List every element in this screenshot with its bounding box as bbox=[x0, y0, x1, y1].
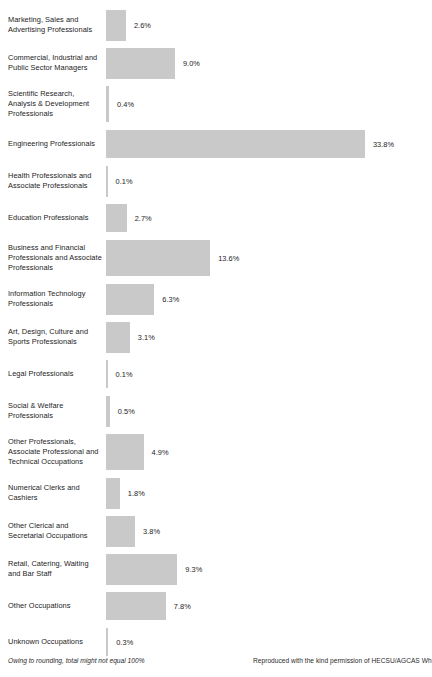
bar-track: 6.3% bbox=[106, 280, 421, 318]
bar-row: Marketing, Sales and Advertising Profess… bbox=[0, 6, 421, 44]
bar-row-label: Commercial, Industrial and Public Sector… bbox=[0, 53, 106, 73]
bar bbox=[106, 554, 177, 585]
bar-track: 0.1% bbox=[106, 162, 421, 200]
bar-row: Other Occupations7.8% bbox=[0, 588, 421, 624]
bar-value-label: 6.3% bbox=[162, 295, 179, 304]
bar-row: Numerical Clerks and Cashiers1.8% bbox=[0, 474, 421, 512]
bar-track: 0.4% bbox=[106, 82, 421, 126]
bar bbox=[106, 86, 109, 122]
bar-track: 9.0% bbox=[106, 44, 421, 82]
bar-value-label: 3.8% bbox=[143, 527, 160, 536]
bar bbox=[106, 130, 365, 158]
bar-value-label: 4.9% bbox=[152, 448, 169, 457]
bar-row: Other Professionals, Associate Professio… bbox=[0, 430, 421, 474]
bar-track: 3.1% bbox=[106, 318, 421, 356]
bar-row-label: Marketing, Sales and Advertising Profess… bbox=[0, 15, 106, 35]
bar bbox=[106, 396, 110, 427]
bar-row-label: Numerical Clerks and Cashiers bbox=[0, 483, 106, 503]
bar-value-label: 9.3% bbox=[185, 565, 202, 574]
bar-row-label: Other Occupations bbox=[0, 601, 106, 611]
bar-value-label: 3.1% bbox=[138, 333, 155, 342]
bar bbox=[106, 516, 135, 547]
bar-value-label: 0.1% bbox=[116, 370, 133, 379]
bar-value-label: 1.8% bbox=[128, 489, 145, 498]
bar-row-label: Other Professionals, Associate Professio… bbox=[0, 437, 106, 468]
bar-value-label: 7.8% bbox=[174, 602, 191, 611]
bar-track: 0.5% bbox=[106, 392, 421, 430]
bar-value-label: 0.4% bbox=[117, 100, 134, 109]
bar-track: 4.9% bbox=[106, 430, 421, 474]
bar bbox=[106, 360, 108, 388]
bar-track: 2.7% bbox=[106, 200, 421, 236]
bar-track: 13.6% bbox=[106, 236, 421, 280]
bar-row: Other Clerical and Secretarial Occupatio… bbox=[0, 512, 421, 550]
chart-footer: Owing to rounding, total might not equal… bbox=[0, 657, 421, 671]
bar-row-label: Retail, Catering, Waiting and Bar Staff bbox=[0, 559, 106, 579]
bar-row-label: Other Clerical and Secretarial Occupatio… bbox=[0, 521, 106, 541]
bar bbox=[106, 478, 120, 509]
bar-value-label: 0.3% bbox=[116, 638, 133, 647]
bar-row-label: Education Professionals bbox=[0, 213, 106, 223]
bar bbox=[106, 48, 175, 79]
bar bbox=[106, 434, 144, 470]
bar bbox=[106, 628, 108, 656]
bar-row: Social & Welfare Professionals0.5% bbox=[0, 392, 421, 430]
bar-row: Education Professionals2.7% bbox=[0, 200, 421, 236]
bar-value-label: 2.7% bbox=[135, 214, 152, 223]
bar-row-label: Scientific Research, Analysis & Developm… bbox=[0, 89, 106, 120]
footer-credit-note: Reproduced with the kind permission of H… bbox=[253, 657, 432, 664]
bar-row-label: Social & Welfare Professionals bbox=[0, 401, 106, 421]
bar-track: 3.8% bbox=[106, 512, 421, 550]
footer-rounding-note: Owing to rounding, total might not equal… bbox=[8, 657, 145, 664]
bar-row: Unknown Occupations0.3% bbox=[0, 624, 421, 660]
bar-track: 33.8% bbox=[106, 126, 421, 162]
bar bbox=[106, 10, 126, 41]
bar-value-label: 9.0% bbox=[183, 59, 200, 68]
bar-row: Information Technology Professionals6.3% bbox=[0, 280, 421, 318]
bar bbox=[106, 240, 210, 276]
bar bbox=[106, 322, 130, 353]
bar-track: 0.3% bbox=[106, 624, 421, 660]
bar-row-label: Business and Financial Professionals and… bbox=[0, 243, 106, 274]
bar-value-label: 13.6% bbox=[218, 254, 239, 263]
bar-value-label: 0.1% bbox=[116, 177, 133, 186]
bar-row: Commercial, Industrial and Public Sector… bbox=[0, 44, 421, 82]
bar bbox=[106, 204, 127, 232]
bar-chart-rows: Marketing, Sales and Advertising Profess… bbox=[0, 6, 421, 660]
bar-row-label: Engineering Professionals bbox=[0, 139, 106, 149]
bar bbox=[106, 592, 166, 620]
bar-row: Engineering Professionals33.8% bbox=[0, 126, 421, 162]
bar-track: 0.1% bbox=[106, 356, 421, 392]
bar-row: Retail, Catering, Waiting and Bar Staff9… bbox=[0, 550, 421, 588]
bar-row-label: Unknown Occupations bbox=[0, 637, 106, 647]
bar-row: Legal Professionals0.1% bbox=[0, 356, 421, 392]
bar-row: Health Professionals and Associate Profe… bbox=[0, 162, 421, 200]
bar-row-label: Information Technology Professionals bbox=[0, 289, 106, 309]
bar bbox=[106, 284, 154, 315]
bar-track: 2.6% bbox=[106, 6, 421, 44]
bar-row: Business and Financial Professionals and… bbox=[0, 236, 421, 280]
bar bbox=[106, 166, 108, 197]
bar-row-label: Legal Professionals bbox=[0, 369, 106, 379]
bar-track: 7.8% bbox=[106, 588, 421, 624]
bar-track: 1.8% bbox=[106, 474, 421, 512]
bar-row: Scientific Research, Analysis & Developm… bbox=[0, 82, 421, 126]
bar-track: 9.3% bbox=[106, 550, 421, 588]
bar-value-label: 2.6% bbox=[134, 21, 151, 30]
bar-row-label: Health Professionals and Associate Profe… bbox=[0, 171, 106, 191]
bar-row: Art, Design, Culture and Sports Professi… bbox=[0, 318, 421, 356]
bar-row-label: Art, Design, Culture and Sports Professi… bbox=[0, 327, 106, 347]
bar-value-label: 0.5% bbox=[118, 407, 135, 416]
bar-value-label: 33.8% bbox=[373, 140, 394, 149]
